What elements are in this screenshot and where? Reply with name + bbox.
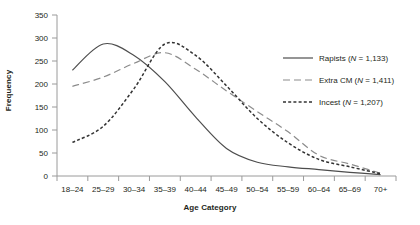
- x-tick-label-1: 25–29: [92, 185, 115, 194]
- x-tick-label-10: 70+: [374, 185, 388, 194]
- chart-canvas: 050100150200250300350 18–2425–2930–3435–…: [0, 0, 420, 225]
- y-tick-label-350: 350: [35, 11, 49, 20]
- y-axis-ticks: 050100150200250300350: [35, 11, 57, 181]
- x-tick-label-4: 40–44: [185, 185, 208, 194]
- x-axis-ticks: 18–2425–2930–3435–3940–4445–4950–5455–59…: [57, 176, 396, 194]
- y-tick-label-150: 150: [35, 103, 49, 112]
- x-tick-label-3: 35–39: [154, 185, 177, 194]
- y-tick-label-50: 50: [39, 149, 48, 158]
- y-tick-label-0: 0: [44, 172, 49, 181]
- x-axis-title: Age Category: [0, 203, 420, 212]
- y-tick-label-300: 300: [35, 34, 49, 43]
- legend-label-extra-cm: Extra CM (N = 1,411): [319, 76, 395, 85]
- y-tick-label-100: 100: [35, 126, 49, 135]
- y-tick-label-250: 250: [35, 57, 49, 66]
- x-tick-label-9: 65–69: [339, 185, 362, 194]
- x-tick-label-0: 18–24: [61, 185, 84, 194]
- legend-label-incest: Incest (N = 1,207): [319, 98, 383, 107]
- x-tick-label-2: 30–34: [123, 185, 146, 194]
- legend-label-rapists: Rapists (N = 1,133): [319, 54, 388, 63]
- x-tick-label-5: 45–49: [215, 185, 238, 194]
- chart-figure: Frequency 050100150200250300350 18–2425–…: [0, 0, 420, 225]
- series-line-extra-cm: [72, 53, 380, 174]
- y-tick-label-200: 200: [35, 80, 49, 89]
- x-tick-label-6: 50–54: [246, 185, 269, 194]
- x-tick-label-7: 55–59: [277, 185, 300, 194]
- chart-legend: Rapists (N = 1,133)Extra CM (N = 1,411)I…: [283, 54, 395, 107]
- x-tick-label-8: 60–64: [308, 185, 331, 194]
